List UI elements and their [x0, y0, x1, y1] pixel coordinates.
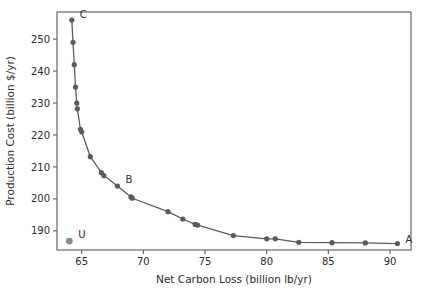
data-point-marker [73, 84, 78, 89]
x-tick-label: 70 [137, 256, 150, 267]
data-point-marker [70, 40, 75, 45]
data-point-marker [165, 209, 170, 214]
data-point-marker [395, 241, 400, 246]
data-point-marker [130, 196, 135, 201]
data-point-marker [74, 100, 79, 105]
data-point-marker [88, 154, 93, 159]
data-point-marker [115, 184, 120, 189]
data-point-marker [329, 240, 334, 245]
y-tick-label: 220 [31, 130, 50, 141]
data-point-marker [79, 129, 84, 134]
x-tick-label: 90 [384, 256, 397, 267]
unconstrained-point-marker [66, 238, 73, 245]
y-axis-label: Production Cost (billion $/yr) [4, 56, 16, 206]
data-point-marker [195, 222, 200, 227]
data-point-marker [180, 216, 185, 221]
x-tick-label: 65 [75, 256, 88, 267]
x-axis-label: Net Carbon Loss (billion lb/yr) [156, 273, 312, 285]
data-point-marker [363, 240, 368, 245]
data-point-marker [273, 236, 278, 241]
point-label-u: U [78, 229, 85, 240]
x-tick-label: 75 [199, 256, 212, 267]
x-tick-label: 85 [322, 256, 335, 267]
y-tick-label: 240 [31, 66, 50, 77]
point-label-a: A [405, 234, 412, 245]
data-point-marker [296, 240, 301, 245]
figure-background [0, 0, 423, 290]
point-label-b: B [125, 174, 132, 185]
y-tick-label: 250 [31, 34, 50, 45]
chart-figure: 657075808590 190200210220230240250 CBAU … [0, 0, 423, 290]
data-point-marker [75, 106, 80, 111]
chart-canvas: 657075808590 190200210220230240250 CBAU … [0, 0, 423, 290]
data-point-marker [231, 233, 236, 238]
data-point-marker [264, 236, 269, 241]
data-point-marker [72, 62, 77, 67]
y-tick-label: 200 [31, 193, 50, 204]
point-label-c: C [80, 9, 87, 20]
x-tick-label: 80 [260, 256, 273, 267]
data-point-marker [101, 173, 106, 178]
y-tick-label: 190 [31, 225, 50, 236]
y-tick-label: 230 [31, 98, 50, 109]
y-tick-label: 210 [31, 162, 50, 173]
data-point-marker [69, 17, 74, 22]
